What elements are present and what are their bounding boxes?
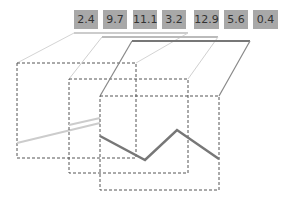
frame-middle <box>69 37 218 173</box>
frames-diagram <box>0 0 292 204</box>
